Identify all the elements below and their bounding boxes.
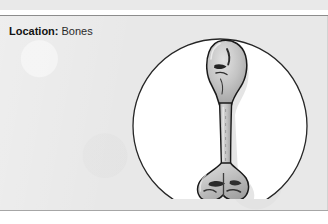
bone-illustration: [132, 23, 308, 199]
screenshot-root: CLIPPED HEADING TEXT Location:Bones: [0, 0, 328, 224]
page-bottom-margin: [0, 211, 328, 224]
bone-shaft: [220, 103, 232, 165]
bone-illustration-svg: [132, 23, 308, 199]
location-card: Location:Bones: [0, 15, 328, 211]
location-label-value: Bones: [62, 25, 93, 37]
clipped-heading-text: CLIPPED HEADING TEXT: [38, 0, 288, 5]
clipped-top-strip: CLIPPED HEADING TEXT: [0, 0, 328, 10]
location-label-key: Location:: [9, 25, 59, 37]
location-label-line: Location:Bones: [9, 25, 93, 38]
